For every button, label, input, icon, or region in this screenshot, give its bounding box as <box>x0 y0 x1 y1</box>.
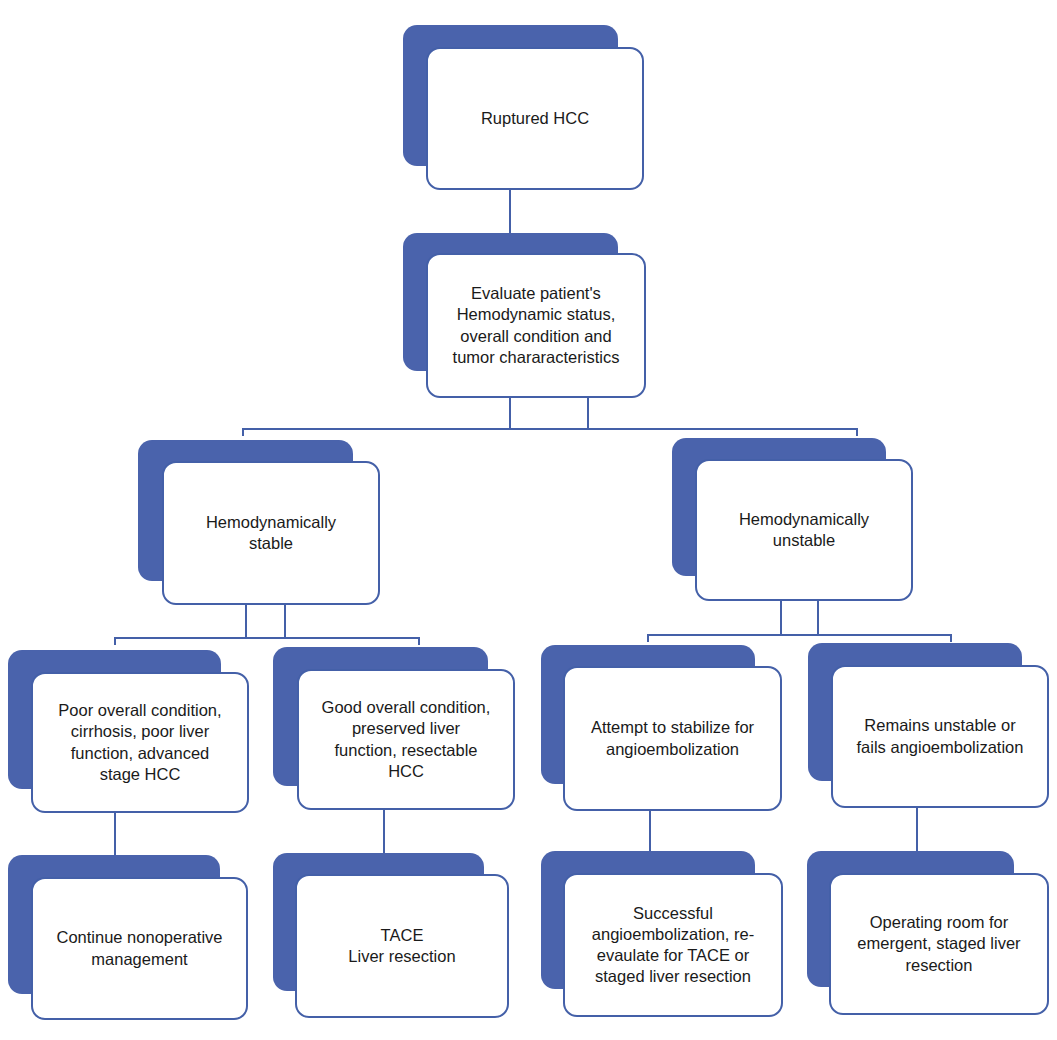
connector-attempt-successful <box>649 809 651 855</box>
connector-evaluate-down-right <box>587 396 589 430</box>
node-remains: Remains unstable or fails angioembolizat… <box>831 665 1049 808</box>
connector-tick-stable <box>242 428 244 436</box>
node-attempt-label: Attempt to stabilize for angioembolizati… <box>591 717 754 759</box>
node-tace: TACE Liver resection <box>295 874 509 1018</box>
node-tace-label: TACE Liver resection <box>348 925 455 967</box>
node-successful-label: Successful angioembolization, re- evaula… <box>592 903 754 987</box>
connector-stable-down-left <box>245 603 247 638</box>
connector-tick-attempt <box>647 634 649 642</box>
node-operating-label: Operating room for emergent, staged live… <box>857 912 1020 975</box>
node-attempt: Attempt to stabilize for angioembolizati… <box>563 666 782 811</box>
flowchart-canvas: Ruptured HCC Evaluate patient's Hemodyna… <box>0 0 1057 1040</box>
node-remains-label: Remains unstable or fails angioembolizat… <box>857 715 1024 757</box>
connector-unstable-down-right <box>817 599 819 635</box>
connector-unstable-down-left <box>780 599 782 635</box>
connector-tick-poor <box>114 637 116 645</box>
node-root: Ruptured HCC <box>426 47 644 190</box>
connector-unstable-horizontal <box>647 634 952 636</box>
node-continue: Continue nonoperative management <box>31 877 248 1020</box>
connector-root-evaluate <box>509 189 511 234</box>
node-good: Good overall condition, preserved liver … <box>297 669 515 810</box>
node-operating: Operating room for emergent, staged live… <box>829 873 1049 1015</box>
node-successful: Successful angioembolization, re- evaula… <box>563 873 783 1017</box>
connector-tick-unstable <box>856 428 858 436</box>
node-evaluate-label: Evaluate patient's Hemodynamic status, o… <box>453 283 620 367</box>
connector-tick-good <box>418 637 420 645</box>
node-poor-label: Poor overall condition, cirrhosis, poor … <box>58 700 221 784</box>
node-unstable: Hemodynamically unstable <box>695 459 913 601</box>
node-poor: Poor overall condition, cirrhosis, poor … <box>31 672 249 813</box>
node-good-label: Good overall condition, preserved liver … <box>322 697 491 781</box>
node-stable-label: Hemodynamically stable <box>206 512 336 554</box>
node-unstable-label: Hemodynamically unstable <box>739 509 869 551</box>
node-continue-label: Continue nonoperative management <box>56 927 222 969</box>
node-evaluate: Evaluate patient's Hemodynamic status, o… <box>426 253 646 398</box>
connector-stable-horizontal <box>114 637 420 639</box>
node-stable: Hemodynamically stable <box>162 461 380 605</box>
node-root-label: Ruptured HCC <box>481 108 589 129</box>
connector-stable-down-right <box>284 603 286 638</box>
connector-remains-operating <box>916 806 918 853</box>
connector-evaluate-horizontal <box>242 428 858 430</box>
connector-good-tace <box>383 808 385 854</box>
connector-evaluate-down-left <box>509 396 511 430</box>
connector-tick-remains <box>950 634 952 642</box>
connector-poor-continue <box>114 811 116 856</box>
